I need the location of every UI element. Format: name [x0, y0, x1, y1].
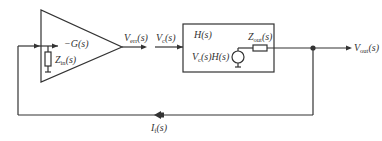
source-label: Vc(s)H(s) — [192, 52, 229, 64]
zin-arrow-icon — [52, 44, 58, 49]
feedback-current-arrow-icon — [154, 111, 161, 119]
block-diagram-canvas — [0, 0, 382, 141]
zout-sub: out — [254, 36, 262, 43]
input-arrow-icon — [34, 44, 40, 49]
vc-label: Vc(s) — [156, 33, 176, 45]
zout-resistor — [253, 45, 267, 51]
junction-dot — [310, 45, 315, 50]
vc-arrow-icon — [177, 45, 183, 50]
vc-arg: (s) — [165, 32, 176, 43]
feedback-current-arrow-body — [160, 113, 164, 118]
if-arg: (s) — [157, 122, 168, 133]
plant-title: H(s) — [194, 30, 212, 40]
vout-arg: (s) — [368, 42, 379, 53]
zin-arg: (s) — [66, 54, 77, 65]
source-arg: (s)H(s) — [201, 51, 229, 62]
vout-label: Vout(s) — [354, 43, 379, 55]
zout-arg: (s) — [262, 31, 273, 42]
verr-label: Verr(s) — [124, 33, 148, 45]
zin-label: Zin(s) — [55, 55, 76, 67]
voltage-source-icon — [232, 51, 244, 63]
verr-arg: (s) — [137, 32, 148, 43]
zout-label: Zout(s) — [248, 32, 272, 44]
zin-resistor — [45, 52, 51, 66]
vout-arrow-icon — [346, 46, 352, 51]
verr-arrow-icon — [141, 45, 147, 50]
feedback-current-label: If(s) — [151, 123, 167, 135]
gain-label: −G(s) — [64, 39, 89, 49]
